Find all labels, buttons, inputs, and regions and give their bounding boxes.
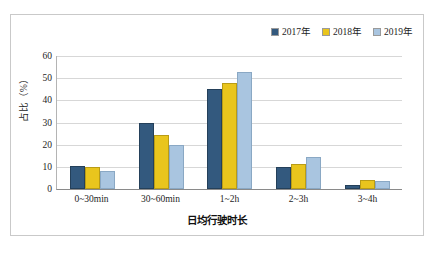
bar[interactable] [237,72,252,189]
y-axis-tick-label: 60 [43,51,53,61]
bar-groups [58,56,402,189]
bar[interactable] [139,123,154,190]
x-axis-tick-label: 3~4h [333,194,402,205]
bar[interactable] [306,157,321,189]
bar[interactable] [154,135,169,189]
legend-item[interactable]: 2017年 [271,27,311,37]
bar-group [196,56,265,189]
legend-swatch-icon [322,28,330,36]
y-axis-tick-label: 20 [43,140,53,150]
bar-group [264,56,333,189]
y-axis-tick-label: 50 [43,73,53,83]
x-axis-title: 日均行驶时长 [11,215,423,227]
bar[interactable] [100,171,115,189]
bar[interactable] [375,181,390,189]
x-axis-tick-label: 30~60min [126,194,195,205]
y-axis-tick-label: 30 [43,118,53,128]
bar[interactable] [222,83,237,189]
bar[interactable] [360,180,375,189]
chart-frame: 2017年2018年2019年 占比（%） 0102030405060 0~30… [10,14,424,236]
chart-legend: 2017年2018年2019年 [271,27,413,37]
bar[interactable] [85,167,100,189]
x-axis-tick-label: 2~3h [264,194,333,205]
y-axis-tick-label: 10 [43,162,53,172]
legend-label: 2018年 [333,27,362,37]
x-axis-tick-label: 1~2h [195,194,264,205]
bar[interactable] [345,185,360,189]
bar-group [58,56,127,189]
bar[interactable] [207,89,222,189]
legend-item[interactable]: 2019年 [373,27,413,37]
x-axis-tick-label: 0~30min [57,194,126,205]
bar-group [127,56,196,189]
legend-item[interactable]: 2018年 [322,27,362,37]
legend-label: 2019年 [384,27,413,37]
y-axis-title: 占比（%） [19,74,29,122]
x-axis-ticks: 0~30min30~60min1~2h2~3h3~4h [57,194,402,205]
bar[interactable] [276,167,291,189]
bar-group [333,56,402,189]
plot-area: 0102030405060 [56,56,402,190]
legend-label: 2017年 [282,27,311,37]
bar[interactable] [169,145,184,189]
y-axis-tick-label: 0 [47,184,52,194]
y-axis-tick-label: 40 [43,95,53,105]
legend-swatch-icon [373,28,381,36]
bar[interactable] [70,166,85,189]
legend-swatch-icon [271,28,279,36]
bar[interactable] [291,164,306,189]
